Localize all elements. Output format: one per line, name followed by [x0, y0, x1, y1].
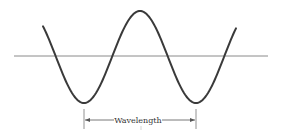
right-arrowhead-icon — [190, 118, 195, 122]
wavelength-label: Wavelength — [114, 116, 161, 125]
wavelength-annotation: Wavelength — [84, 109, 196, 130]
sine-wave — [43, 11, 236, 103]
left-arrowhead-icon — [85, 118, 90, 122]
wave-diagram: Wavelength — [0, 0, 281, 136]
